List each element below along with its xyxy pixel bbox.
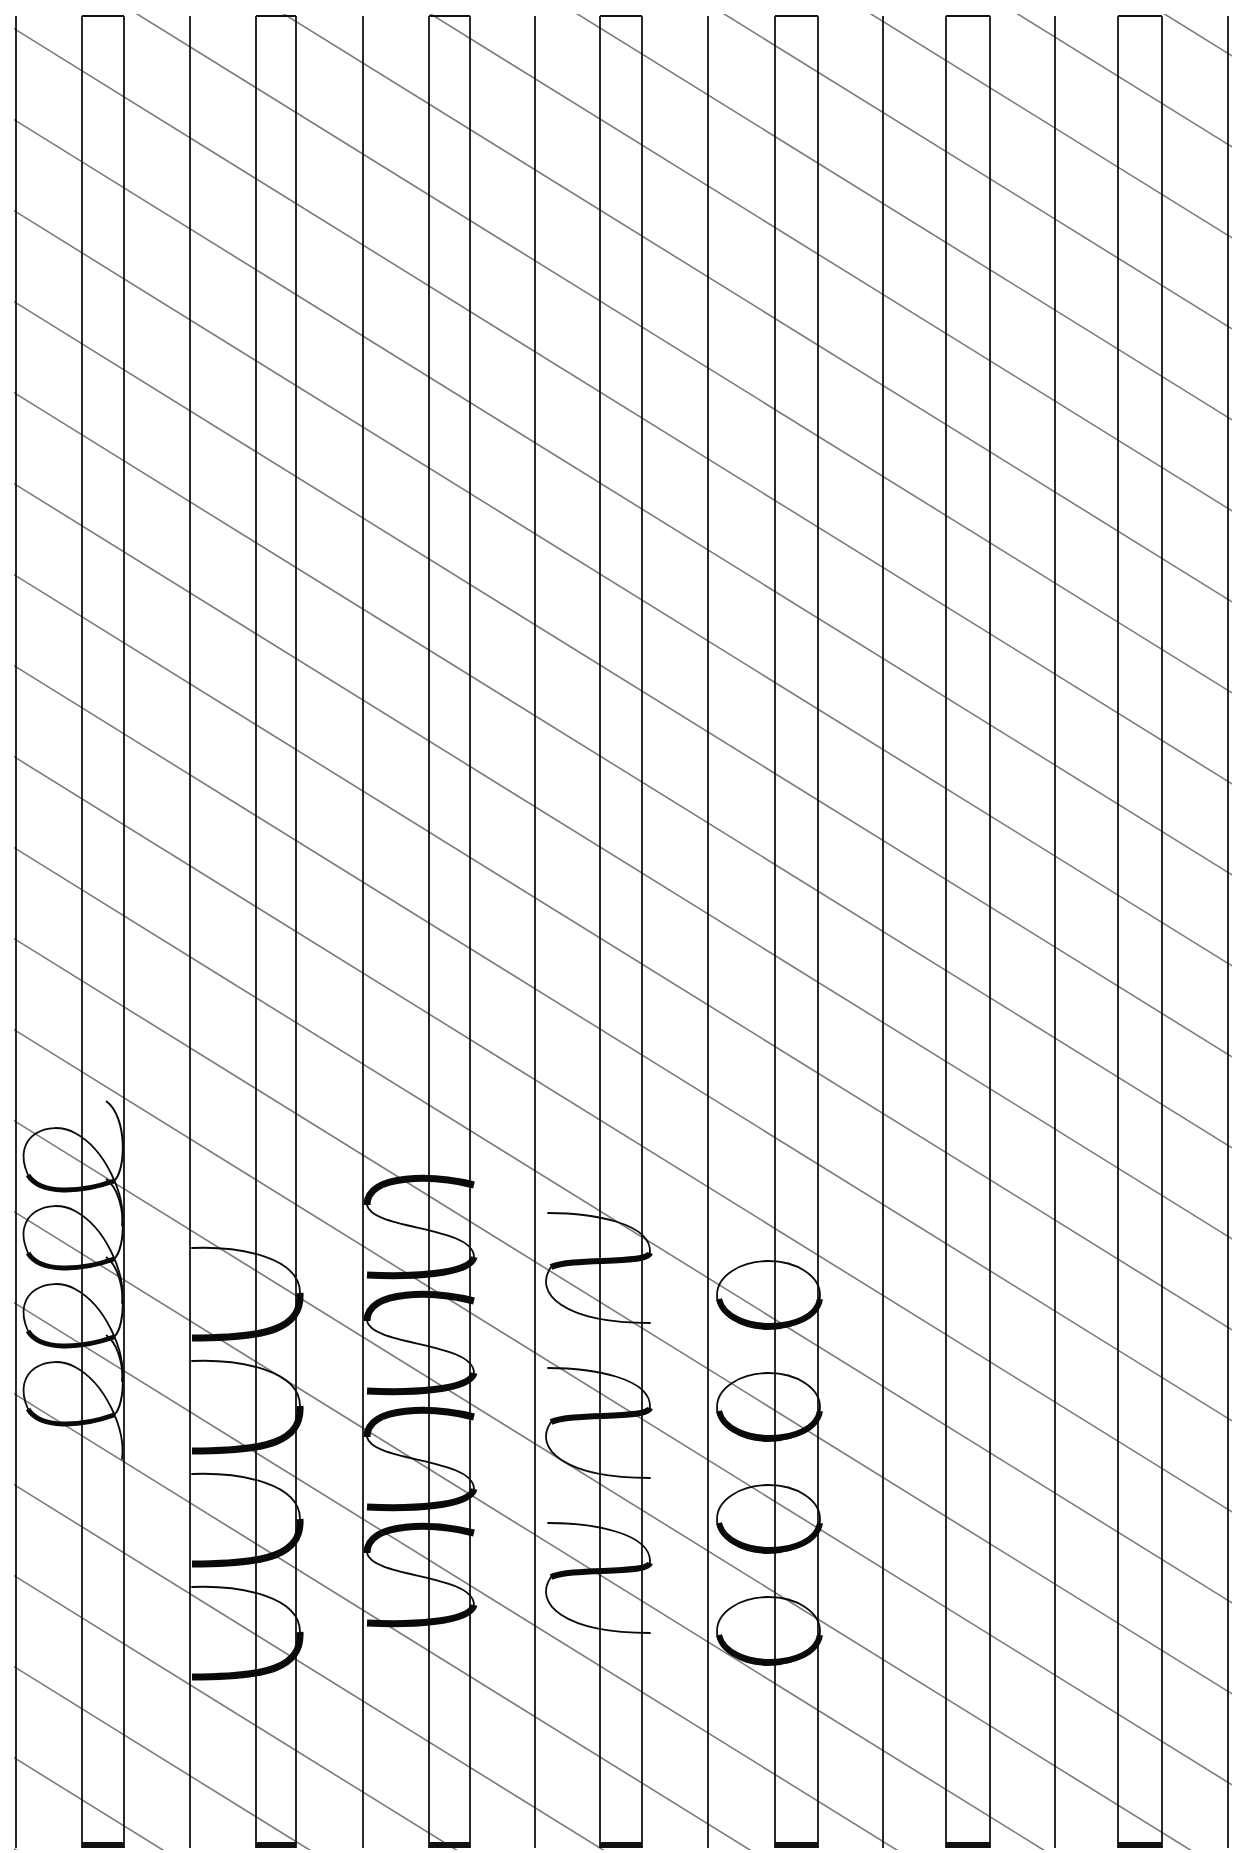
drill-reverse-s-curves <box>546 1213 650 1633</box>
slant-guide-line <box>0 1658 1259 1853</box>
slant-guide-line <box>0 0 1259 346</box>
practice-drill-strokes <box>23 1101 820 1677</box>
drill-u-loops <box>192 1248 300 1677</box>
s-curve-bottom-shade <box>367 1373 474 1392</box>
drill-ovals <box>717 1261 820 1665</box>
s-curve-bottom-shade <box>367 1605 474 1624</box>
s-curve-bottom-shade <box>367 1489 474 1508</box>
rev-s-hairline-bottom <box>546 1577 650 1633</box>
rev-s-hairline-top <box>548 1523 650 1563</box>
rev-s-hairline-top <box>548 1368 650 1408</box>
guide-sheet-canvas <box>0 0 1259 1853</box>
e-loop-hairline <box>23 1362 122 1459</box>
x-height-box <box>82 16 124 1848</box>
slant-guide-line <box>0 0 1259 528</box>
s-curve-top-shade <box>367 1294 474 1321</box>
slant-guide-line <box>0 0 1259 73</box>
slant-guide-line <box>0 1203 1259 1853</box>
oval-shade <box>719 1523 820 1550</box>
s-curve-top-shade <box>367 1526 474 1553</box>
s-curve-top-shade <box>367 1410 474 1437</box>
rev-s-hairline-bottom <box>546 1267 650 1323</box>
u-loop-shade <box>192 1406 300 1451</box>
s-curve-bottom-shade <box>367 1257 474 1276</box>
slant-guide-lines <box>0 0 1259 1853</box>
box-bottom-bar <box>256 1842 296 1848</box>
slant-guide-line <box>0 1476 1259 1853</box>
x-height-box <box>1118 16 1162 1848</box>
s-curve-spine <box>367 1205 474 1257</box>
u-loop-hairline <box>192 1587 300 1632</box>
u-loop-hairline <box>192 1361 300 1406</box>
box-bottom-bar <box>429 1842 470 1848</box>
slant-guide-line <box>0 0 1259 255</box>
box-bottom-bar <box>600 1842 642 1848</box>
oval-shade <box>719 1411 820 1438</box>
drill-s-curves <box>367 1178 474 1623</box>
vertical-ruling-lines <box>16 16 1228 1848</box>
s-curve-spine <box>367 1553 474 1605</box>
box-bottom-bar <box>82 1842 124 1848</box>
x-height-box <box>775 16 818 1848</box>
box-bottom-bar <box>946 1842 990 1848</box>
box-bottom-bar <box>1118 1842 1162 1848</box>
drill-e-loops <box>23 1101 122 1459</box>
slant-guide-line <box>0 1294 1259 1853</box>
slant-guide-line <box>0 1567 1259 1853</box>
slant-guide-line <box>0 1385 1259 1853</box>
oval-shade <box>719 1299 820 1326</box>
u-loop-shade <box>192 1632 300 1677</box>
slant-guide-line <box>0 0 1259 164</box>
e-loop-shade <box>28 1175 114 1190</box>
slant-guide-line <box>0 0 1259 619</box>
slant-guide-line <box>0 1112 1259 1853</box>
calligraphy-practice-sheet <box>0 0 1259 1853</box>
s-curve-spine <box>367 1321 474 1373</box>
slant-guide-line <box>0 1749 1259 1853</box>
slant-guide-line <box>0 0 1259 710</box>
s-curve-top-shade <box>367 1178 474 1205</box>
box-bottom-bar <box>775 1842 818 1848</box>
u-loop-shade <box>192 1519 300 1564</box>
u-loop-hairline <box>192 1248 300 1293</box>
rev-s-hairline-bottom <box>546 1422 650 1478</box>
slant-guide-line <box>0 0 1259 437</box>
x-height-box <box>946 16 990 1848</box>
u-loop-hairline <box>192 1474 300 1519</box>
